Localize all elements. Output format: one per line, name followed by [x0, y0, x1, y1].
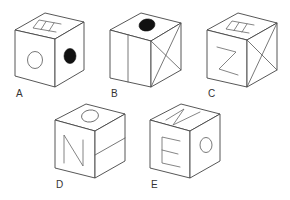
cube-options-diagram — [0, 0, 290, 200]
cube-a[interactable] — [15, 13, 84, 87]
cube-c-front-face — [207, 30, 247, 87]
cube-e[interactable] — [150, 104, 220, 178]
option-label-a: A — [16, 88, 23, 99]
option-label-c: C — [208, 88, 215, 99]
cube-d[interactable] — [55, 104, 125, 178]
option-label-e: E — [151, 179, 158, 190]
cube-c[interactable] — [207, 13, 277, 87]
option-label-d: D — [56, 179, 63, 190]
open-circle-icon — [28, 52, 43, 69]
cube-b[interactable] — [110, 13, 181, 87]
open-circle-icon — [200, 138, 212, 153]
filled-circle-icon — [64, 49, 76, 64]
option-label-b: B — [111, 88, 118, 99]
